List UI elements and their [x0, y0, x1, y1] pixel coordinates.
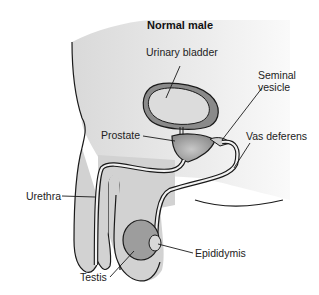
anatomy-diagram — [0, 0, 319, 295]
label-vas-deferens: Vas deferens — [246, 130, 307, 142]
diagram-title: Normal male — [147, 19, 213, 31]
label-seminal-vesicle-line1: Seminal — [258, 69, 296, 81]
label-urethra: Urethra — [26, 190, 61, 202]
epididymis — [149, 235, 161, 251]
perineum-contour — [195, 200, 283, 206]
label-urinary-bladder: Urinary bladder — [146, 46, 218, 58]
label-prostate: Prostate — [101, 129, 140, 141]
label-testis: Testis — [80, 271, 107, 283]
label-seminal-vesicle-line2: vesicle — [258, 81, 290, 93]
label-epididymis: Epididymis — [195, 247, 246, 259]
